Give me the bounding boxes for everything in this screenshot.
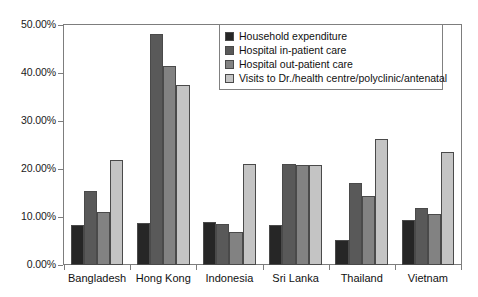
bar: [110, 160, 123, 265]
bar: [203, 222, 216, 265]
bar: [176, 85, 189, 265]
x-axis-tick-mark: [329, 265, 330, 270]
legend-swatch-icon: [225, 46, 234, 55]
legend-label: Visits to Dr./health centre/polyclinic/a…: [239, 73, 447, 84]
x-axis-tick-mark: [130, 265, 131, 270]
bar: [71, 225, 84, 265]
x-axis-tick-mark: [263, 265, 264, 270]
bar: [309, 165, 322, 265]
bar: [335, 240, 348, 265]
x-axis-category-label: Indonesia: [196, 272, 262, 284]
x-axis-category-label: Bangladesh: [64, 272, 130, 284]
y-axis-tick-label: 40.00%: [2, 66, 56, 78]
y-axis-tick-label: 50.00%: [2, 18, 56, 30]
x-axis-tick-mark: [461, 265, 462, 270]
x-axis-category-label: Thailand: [329, 272, 395, 284]
chart-legend: Household expenditureHospital in-patient…: [219, 24, 443, 90]
legend-label: Household expenditure: [239, 31, 347, 42]
bar: [269, 225, 282, 265]
legend-swatch-icon: [225, 74, 234, 83]
bar: [428, 214, 441, 265]
bar: [84, 191, 97, 265]
bar-group: [130, 25, 196, 265]
legend-swatch-icon: [225, 60, 234, 69]
x-axis-category-label: Hong Kong: [130, 272, 196, 284]
y-axis-tick-mark: [58, 265, 63, 266]
legend-label: Hospital in-patient care: [239, 45, 346, 56]
bar: [402, 220, 415, 265]
bar: [97, 212, 110, 265]
bar: [375, 139, 388, 265]
y-axis-tick-label: 20.00%: [2, 162, 56, 174]
legend-item: Visits to Dr./health centre/polyclinic/a…: [225, 71, 437, 85]
bar: [282, 164, 295, 265]
legend-label: Hospital out-patient care: [239, 59, 353, 70]
bar-chart: 0.00%10.00%20.00%30.00%40.00%50.00% Bang…: [0, 0, 478, 297]
bar: [216, 224, 229, 265]
bar: [349, 183, 362, 265]
bar: [150, 34, 163, 265]
x-axis-tick-mark: [64, 265, 65, 270]
bar: [243, 164, 256, 265]
y-axis-tick-label: 10.00%: [2, 210, 56, 222]
bar: [441, 152, 454, 265]
legend-item: Hospital out-patient care: [225, 57, 437, 71]
bar: [415, 208, 428, 265]
legend-swatch-icon: [225, 32, 234, 41]
bar: [296, 165, 309, 265]
bar: [137, 223, 150, 265]
bar-group: [64, 25, 130, 265]
bar: [362, 196, 375, 265]
x-axis-tick-mark: [196, 265, 197, 270]
x-axis-category-label: Sri Lanka: [263, 272, 329, 284]
bar: [229, 232, 242, 265]
bar: [163, 66, 176, 265]
x-axis-category-label: Vietnam: [395, 272, 461, 284]
legend-item: Household expenditure: [225, 29, 437, 43]
legend-item: Hospital in-patient care: [225, 43, 437, 57]
x-axis-tick-mark: [395, 265, 396, 270]
y-axis-tick-label: 0.00%: [2, 258, 56, 270]
y-axis-tick-label: 30.00%: [2, 114, 56, 126]
